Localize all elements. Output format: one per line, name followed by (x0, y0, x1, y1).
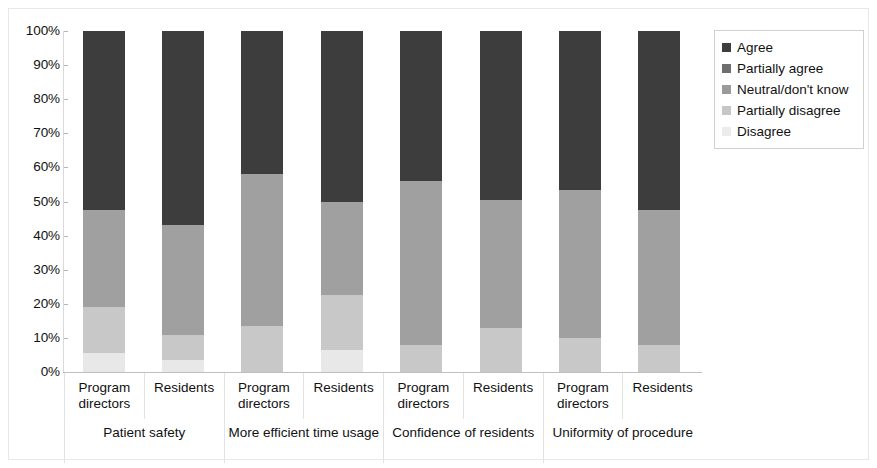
legend-label: Partially agree (737, 62, 823, 76)
legend-label: Neutral/don't know (737, 83, 848, 97)
x-axis-category-label: Program directors (543, 373, 623, 419)
bar-column (638, 31, 680, 372)
x-axis-group-label: More efficient time usage (224, 419, 384, 463)
y-axis-tick-label: 0% (16, 365, 60, 379)
bar-column (400, 31, 442, 372)
bar-segment (638, 31, 680, 210)
x-axis-category-labels: Program directorsResidentsProgram direct… (64, 373, 702, 419)
y-axis-tick-label: 90% (16, 58, 60, 72)
bar-segment (400, 181, 442, 345)
chart-legend: AgreePartially agreeNeutral/don't knowPa… (714, 30, 864, 149)
bar-segment (559, 190, 601, 338)
bar-segment (321, 31, 363, 202)
bar-segment (638, 345, 680, 372)
bar-segment (480, 200, 522, 328)
bar-segment (83, 353, 125, 372)
legend-label: Agree (737, 41, 773, 55)
y-axis-tick-label: 10% (16, 331, 60, 345)
y-axis-tick-label: 30% (16, 263, 60, 277)
bar-segment (83, 307, 125, 353)
bar-segment (162, 335, 204, 361)
bar-column (162, 31, 204, 372)
bar-column (480, 31, 522, 372)
legend-item: Agree (722, 37, 857, 58)
bar-segment (321, 350, 363, 372)
y-axis-tick-label: 80% (16, 92, 60, 106)
bar-segment (162, 225, 204, 334)
bar-column (83, 31, 125, 372)
y-axis-tick-label: 50% (16, 195, 60, 209)
stacked-bar-chart: 100%90%80%70%60%50%40%30%20%10%0% Progra… (0, 0, 877, 468)
bar-segment (83, 210, 125, 307)
y-axis-tick-label: 20% (16, 297, 60, 311)
x-axis-category-label: Residents (144, 373, 224, 419)
legend-item: Partially agree (722, 58, 857, 79)
bar-column (241, 31, 283, 372)
legend-label: Disagree (737, 125, 791, 139)
legend-swatch-icon (722, 106, 731, 115)
legend-swatch-icon (722, 43, 731, 52)
y-axis-tick-label: 100% (16, 24, 60, 38)
x-axis-group-label: Uniformity of procedure (543, 419, 703, 463)
x-axis-category-label: Program directors (224, 373, 304, 419)
y-axis-tick-label: 70% (16, 126, 60, 140)
x-axis-category-label: Residents (463, 373, 543, 419)
bar-column (321, 31, 363, 372)
bar-segment (400, 345, 442, 372)
bar-segment (480, 31, 522, 200)
y-axis-tick-label: 60% (16, 160, 60, 174)
bar-segment (559, 31, 601, 190)
bar-column (559, 31, 601, 372)
legend-item: Partially disagree (722, 100, 857, 121)
x-axis-category-label: Program directors (64, 373, 144, 419)
y-axis: 100%90%80%70%60%50%40%30%20%10%0% (8, 0, 60, 468)
x-axis-category-label: Program directors (383, 373, 463, 419)
legend-swatch-icon (722, 127, 731, 136)
legend-swatch-icon (722, 64, 731, 73)
bar-segment (480, 328, 522, 372)
bar-segment (321, 295, 363, 350)
bar-segment (162, 360, 204, 372)
legend-swatch-icon (722, 85, 731, 94)
bar-segment (559, 338, 601, 372)
legend-item: Neutral/don't know (722, 79, 857, 100)
x-axis-category-label: Residents (622, 373, 702, 419)
x-axis-category-label: Residents (303, 373, 383, 419)
bar-segment (638, 210, 680, 345)
bar-segment (400, 31, 442, 181)
bar-segment (162, 31, 204, 225)
bar-segment (321, 202, 363, 296)
bar-segment (241, 174, 283, 326)
x-axis-group-label: Confidence of residents (383, 419, 543, 463)
x-axis-group-labels: Patient safetyMore efficient time usageC… (64, 419, 702, 463)
bar-segment (241, 31, 283, 174)
plot-area (64, 31, 699, 372)
bar-segment (83, 31, 125, 210)
legend-label: Partially disagree (737, 104, 841, 118)
y-axis-tick-label: 40% (16, 229, 60, 243)
x-axis-group-label: Patient safety (64, 419, 224, 463)
legend-item: Disagree (722, 121, 857, 142)
bar-segment (241, 326, 283, 372)
